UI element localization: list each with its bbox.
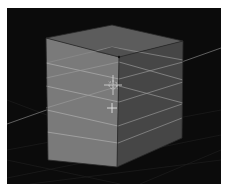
cube-left-face[interactable] — [46, 38, 119, 167]
viewport-scene[interactable] — [0, 0, 231, 192]
cube-right-face[interactable] — [117, 41, 183, 167]
front-vertex[interactable] — [118, 56, 120, 58]
